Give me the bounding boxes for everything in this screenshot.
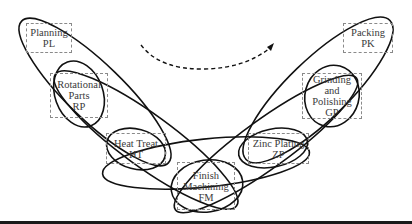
- node-finish-machining: Finish Machining FM: [177, 162, 235, 210]
- node-planning: Planning PL: [26, 23, 72, 53]
- node-zinc-plating-label: Zinc Plating: [253, 138, 305, 149]
- node-planning-label: Planning: [30, 27, 67, 38]
- node-finish-machining-label-2: Machining: [183, 181, 229, 192]
- node-rotational-parts-code: RP: [73, 101, 86, 112]
- node-grinding-polishing-label-1: Grinding: [313, 74, 351, 85]
- node-grinding-polishing-label-2: and: [324, 85, 339, 96]
- node-rotational-parts-label-1: Rotational: [57, 79, 101, 90]
- node-packing: Packing PK: [343, 23, 393, 53]
- node-packing-code: PK: [361, 38, 374, 49]
- node-planning-code: PL: [43, 38, 55, 49]
- node-rotational-parts: Rotational Parts RP: [50, 73, 108, 118]
- node-rotational-parts-label-2: Parts: [69, 90, 90, 101]
- node-heat-treat-label: Heat Treat: [114, 138, 158, 149]
- bottom-border-bar: [0, 221, 412, 224]
- flow-arrow: [141, 45, 270, 69]
- node-heat-treat-code: HT: [129, 149, 143, 160]
- node-finish-machining-code: FM: [198, 192, 213, 203]
- node-grinding-polishing-label-3: Polishing: [312, 96, 352, 107]
- node-packing-label: Packing: [351, 27, 385, 38]
- node-finish-machining-label-1: Finish: [193, 170, 219, 181]
- node-grinding-polishing: Grinding and Polishing GP: [302, 73, 362, 119]
- node-zinc-plating: Zinc Plating ZP: [248, 133, 309, 164]
- node-zinc-plating-code: ZP: [272, 149, 284, 160]
- node-heat-treat: Heat Treat HT: [106, 133, 166, 164]
- node-grinding-polishing-code: GP: [325, 107, 338, 118]
- arrowhead-icon: [267, 43, 274, 51]
